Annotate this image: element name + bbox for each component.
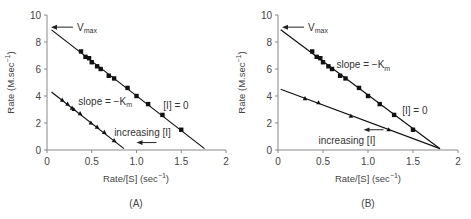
y-tick-label: 0	[266, 145, 272, 156]
x-tick-label: 0.5	[316, 156, 330, 167]
panel-label: (B)	[361, 198, 374, 209]
data-point-square	[146, 102, 150, 106]
data-point-square	[357, 86, 361, 90]
x-tick-label: 1.5	[406, 156, 420, 167]
y-tick-label: 4	[35, 91, 41, 102]
y-tick-label: 4	[266, 91, 272, 102]
x-tick-label: 0	[44, 156, 50, 167]
data-point-square	[343, 76, 347, 80]
y-tick-label: 2	[266, 118, 272, 129]
increasing-arrow-icon	[364, 127, 384, 132]
x-tick-label: 1.5	[174, 156, 188, 167]
y-tick-label: 6	[35, 64, 41, 75]
data-point-square	[125, 86, 129, 90]
x-tick-label: 1.0	[361, 156, 375, 167]
vmax-label: Vmax	[308, 22, 328, 35]
chart-panel-a: 024681000.51.01.52Rate/[S] (sec−1)Rate (…	[4, 10, 229, 210]
y-tick-label: 10	[30, 10, 42, 21]
series-no-inhibitor	[281, 30, 440, 149]
slope-label: slope = −Km	[78, 96, 132, 109]
data-point-square	[99, 67, 103, 71]
x-axis-label: Rate/[S] (sec−1)	[335, 172, 401, 184]
data-point-square	[321, 60, 325, 64]
y-tick-label: 8	[35, 37, 41, 48]
y-tick-label: 0	[35, 145, 41, 156]
increasing-inhibitor-label: increasing [I]	[319, 135, 376, 146]
data-point-square	[392, 113, 396, 117]
y-tick-label: 2	[35, 118, 41, 129]
x-tick-label: 0.5	[85, 156, 99, 167]
x-tick-label: 2	[455, 156, 461, 167]
x-tick-label: 1.0	[130, 156, 144, 167]
y-tick-label: 8	[266, 37, 272, 48]
y-tick-label: 10	[261, 10, 273, 21]
data-point-square	[112, 76, 116, 80]
slope-label: slope = −Km	[337, 59, 391, 72]
data-point-square	[330, 67, 334, 71]
data-point-square	[179, 128, 183, 132]
vmax-label: Vmax	[77, 22, 97, 35]
data-point-square	[411, 128, 415, 132]
data-point-square	[107, 74, 111, 78]
data-point-square	[160, 113, 164, 117]
y-tick-label: 6	[266, 64, 272, 75]
x-axis-label: Rate/[S] (sec−1)	[103, 172, 169, 184]
x-tick-label: 2	[223, 156, 229, 167]
data-point-square	[87, 56, 91, 60]
vmax-arrow-icon	[282, 25, 304, 30]
data-point-square	[378, 102, 382, 106]
data-point-square	[318, 56, 322, 60]
chart-panel-b: 024681000.51.01.52Rate/[S] (sec−1)Rate (…	[235, 10, 461, 210]
data-point-square	[134, 94, 138, 98]
vmax-arrow-icon	[51, 25, 73, 30]
data-point-square	[366, 94, 370, 98]
x-tick-label: 0	[275, 156, 281, 167]
data-point-square	[338, 74, 342, 78]
increasing-inhibitor-label: increasing [I]	[114, 127, 171, 138]
data-point-square	[90, 60, 94, 64]
no-inhibitor-label: [I] = 0	[163, 100, 189, 111]
y-axis-label: Rate (M.sec−1)	[235, 51, 247, 113]
chart-canvas: 024681000.51.01.52Rate/[S] (sec−1)Rate (…	[0, 0, 471, 219]
data-point-square	[79, 49, 83, 53]
data-point-square	[310, 49, 314, 53]
panel-label: (A)	[129, 198, 142, 209]
y-axis-label: Rate (M.sec−1)	[4, 51, 16, 113]
increasing-arrow-icon	[137, 140, 157, 145]
no-inhibitor-label: [I] = 0	[402, 105, 428, 116]
